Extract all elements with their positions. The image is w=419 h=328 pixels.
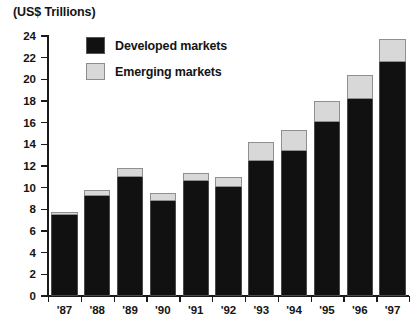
x-axis-tick xyxy=(311,296,312,302)
y-axis-tick xyxy=(41,165,48,166)
y-axis-tick-label: 8 xyxy=(30,203,36,215)
y-axis-tick-label: 14 xyxy=(23,138,36,150)
legend-item-emerging-markets: Emerging markets xyxy=(86,62,246,81)
y-axis-tick xyxy=(41,35,48,36)
bar-segment-developed xyxy=(84,196,110,296)
x-axis-tick xyxy=(278,296,279,302)
x-axis-tick-label: '97 xyxy=(385,304,401,316)
x-axis-tick-label: '89 xyxy=(122,304,138,316)
bar-segment-emerging xyxy=(379,39,405,62)
bar-95[interactable] xyxy=(314,101,340,296)
bar-89[interactable] xyxy=(117,168,143,296)
bar-segment-developed xyxy=(314,122,340,296)
x-axis-tick-label: '87 xyxy=(57,304,73,316)
y-axis-tick xyxy=(41,57,48,58)
legend-label-emerging: Emerging markets xyxy=(115,65,222,79)
stacked-bar-chart: (US$ Trillions) 242220181614121086420 '8… xyxy=(0,0,419,328)
legend-swatch-emerging-icon xyxy=(86,63,105,80)
bar-segment-emerging xyxy=(215,177,241,187)
bar-segment-developed xyxy=(150,201,176,296)
bar-segment-emerging xyxy=(248,142,274,160)
y-axis-tick-label: 6 xyxy=(30,225,36,237)
legend-label-developed: Developed markets xyxy=(115,39,227,53)
y-axis-tick-label: 12 xyxy=(23,160,36,172)
x-axis-tick-label: '93 xyxy=(254,304,270,316)
legend-swatch-developed-icon xyxy=(86,37,105,54)
legend-item-developed-markets: Developed markets xyxy=(86,36,246,55)
bar-segment-developed xyxy=(117,177,143,296)
bar-segment-developed xyxy=(215,187,241,296)
x-axis-tick-label: '90 xyxy=(155,304,171,316)
y-axis-tick-label: 2 xyxy=(30,268,36,280)
y-axis-tick-label: 10 xyxy=(23,182,36,194)
y-axis-tick xyxy=(41,144,48,145)
x-axis-tick xyxy=(376,296,377,302)
x-axis-tick-label: '92 xyxy=(221,304,237,316)
y-axis-tick xyxy=(41,295,48,296)
bar-96[interactable] xyxy=(347,75,373,296)
bar-segment-emerging xyxy=(51,212,77,215)
x-axis-tick-label: '95 xyxy=(319,304,335,316)
bar-segment-developed xyxy=(248,161,274,296)
y-axis-tick xyxy=(41,79,48,80)
bar-94[interactable] xyxy=(281,130,307,296)
bar-segment-emerging xyxy=(314,101,340,122)
bar-segment-emerging xyxy=(183,173,209,182)
x-axis-tick xyxy=(212,296,213,302)
bar-segment-emerging xyxy=(84,190,110,197)
x-axis-tick-label: '88 xyxy=(89,304,105,316)
x-axis-tick xyxy=(343,296,344,302)
bar-91[interactable] xyxy=(183,173,209,297)
bar-segment-emerging xyxy=(117,168,143,177)
bar-88[interactable] xyxy=(84,190,110,296)
bar-97[interactable] xyxy=(379,39,405,296)
x-axis-tick xyxy=(146,296,147,302)
x-axis-tick xyxy=(81,296,82,302)
y-axis-tick xyxy=(41,209,48,210)
y-axis-tick-label: 4 xyxy=(30,247,36,259)
x-axis-tick-label: '96 xyxy=(352,304,368,316)
y-axis-tick xyxy=(41,252,48,253)
y-axis-tick-label: 0 xyxy=(30,290,36,302)
bar-segment-developed xyxy=(379,62,405,296)
bar-segment-developed xyxy=(51,215,77,296)
bar-segment-emerging xyxy=(281,130,307,151)
y-axis-tick-label: 22 xyxy=(23,52,36,64)
y-axis-tick xyxy=(41,187,48,188)
x-axis-tick xyxy=(409,296,410,302)
x-axis-tick xyxy=(114,296,115,302)
x-axis-tick xyxy=(48,296,49,302)
y-axis-tick-label: 24 xyxy=(23,30,36,42)
x-axis-tick xyxy=(179,296,180,302)
chart-title: (US$ Trillions) xyxy=(13,5,96,19)
bar-92[interactable] xyxy=(215,177,241,296)
chart-legend: Developed markets Emerging markets xyxy=(86,36,246,88)
bar-90[interactable] xyxy=(150,193,176,296)
y-axis-tick xyxy=(41,100,48,101)
x-axis-tick xyxy=(245,296,246,302)
y-axis-tick xyxy=(41,230,48,231)
x-axis-tick-label: '91 xyxy=(188,304,204,316)
bar-segment-developed xyxy=(347,99,373,296)
y-axis-tick xyxy=(41,122,48,123)
bar-segment-emerging xyxy=(347,75,373,99)
bar-segment-emerging xyxy=(150,193,176,201)
x-axis-tick-label: '94 xyxy=(286,304,302,316)
y-axis-tick-label: 20 xyxy=(23,73,36,85)
bar-93[interactable] xyxy=(248,142,274,296)
bar-87[interactable] xyxy=(51,212,77,297)
y-axis-tick-label: 16 xyxy=(23,117,36,129)
bar-segment-developed xyxy=(281,151,307,296)
y-axis-tick-label: 18 xyxy=(23,95,36,107)
y-axis-tick xyxy=(41,274,48,275)
bar-segment-developed xyxy=(183,181,209,296)
